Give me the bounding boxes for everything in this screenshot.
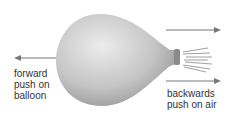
- air-arrow-bottom: [166, 78, 221, 84]
- air-arrow-top: [166, 27, 221, 33]
- forward-push-label: forward push on balloon: [14, 68, 50, 101]
- forward-arrow: [14, 55, 56, 61]
- backward-push-label: backwards push on air: [167, 88, 216, 110]
- air-streaks: [183, 48, 212, 72]
- balloon-nozzle: [174, 49, 180, 65]
- balloon: [56, 14, 176, 106]
